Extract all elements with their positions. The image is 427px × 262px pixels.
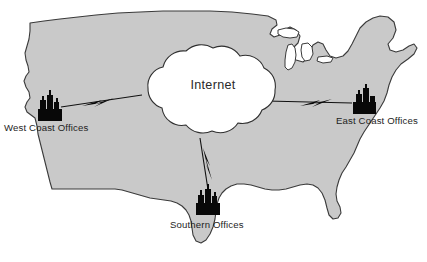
network-diagram: Internet West Coast Offices	[0, 0, 427, 262]
cloud-label: Internet	[190, 78, 235, 92]
lake-huron-erie-shape	[301, 43, 313, 61]
west-coast-label: West Coast Offices	[4, 122, 89, 133]
diagram-canvas: Internet West Coast Offices	[0, 0, 427, 262]
lake-ontario-shape	[317, 56, 333, 63]
east-coast-label: East Coast Offices	[336, 115, 418, 126]
southern-label: Southern Offices	[170, 219, 244, 230]
